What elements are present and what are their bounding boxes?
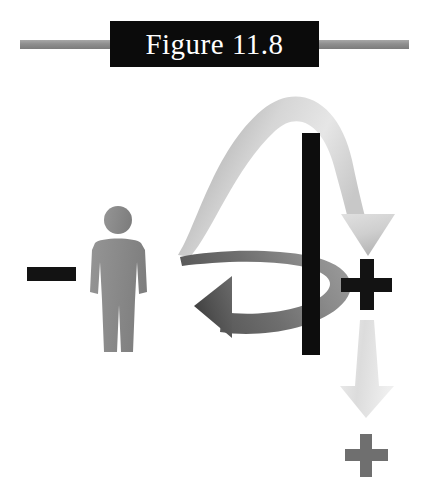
- arc-arrow-over-barrier: [178, 97, 395, 257]
- plus-primary-vertical: [360, 259, 374, 310]
- figure-canvas: Figure 11.8: [0, 0, 431, 487]
- minus-sign: [27, 267, 76, 281]
- diagram-illustration: [0, 0, 431, 487]
- person-silhouette: [90, 206, 147, 352]
- plus-sign-primary: [341, 259, 392, 310]
- pale-down-arrow: [340, 320, 394, 418]
- plus-secondary-vertical: [360, 434, 372, 477]
- return-ribbon-arrow: [180, 251, 351, 338]
- plus-sign-secondary: [345, 434, 388, 477]
- barrier-bar: [302, 133, 320, 355]
